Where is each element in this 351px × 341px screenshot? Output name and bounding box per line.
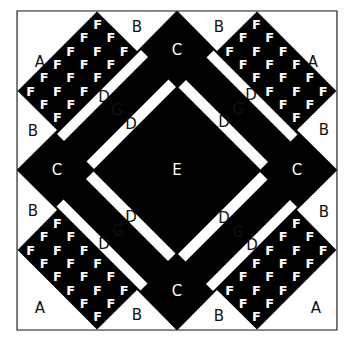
label-f: F [80,30,89,45]
label-f: F [252,283,261,298]
label-f: F [80,269,89,284]
label-g: G [112,222,124,240]
label-d: D [218,113,230,131]
label-g: G [232,223,244,241]
label-f: F [305,256,314,271]
label-f: F [66,70,75,85]
label-f: F [80,296,89,311]
label-f: F [93,44,102,59]
label-f: F [93,256,102,271]
label-b: B [214,307,224,325]
label-f: F [80,84,89,99]
label-f: F [40,97,49,112]
label-f: F [279,256,288,271]
label-b: B [319,121,329,139]
label-f: F [252,309,261,324]
label-f: F [292,57,301,72]
label-f: F [40,256,49,271]
label-f: F [26,243,35,258]
label-f: F [106,269,115,284]
label-f: F [80,243,89,258]
label-b: B [214,18,224,36]
label-g: G [232,100,244,118]
label-f: F [239,296,248,311]
label-f: F [120,283,129,298]
label-f: F [53,243,62,258]
label-f: F [120,44,129,59]
label-f: F [26,84,35,99]
label-f: F [40,70,49,85]
label-f: F [66,283,75,298]
label-f: F [265,243,274,258]
label-f: F [292,216,301,231]
label-f: F [106,57,115,72]
label-a: A [308,53,319,71]
label-d: D [245,86,257,104]
label-f: F [66,97,75,112]
label-f: F [305,229,314,244]
label-f: F [93,283,102,298]
label-f: F [265,84,274,99]
label-f: F [53,269,62,284]
label-f: F [53,110,62,125]
label-f: F [305,97,314,112]
label-d: D [218,209,230,227]
label-f: F [53,216,62,231]
label-a: A [35,299,46,317]
label-f: F [265,296,274,311]
label-f: F [292,84,301,99]
label-f: F [279,283,288,298]
label-c: C [292,161,302,179]
label-f: F [252,70,261,85]
label-d: D [246,236,258,254]
label-f: F [106,296,115,311]
label-f: F [292,110,301,125]
label-a: A [311,299,322,317]
label-b: B [132,18,142,36]
label-d: D [98,235,110,253]
label-f: F [225,283,234,298]
label-f: F [252,44,261,59]
label-f: F [93,309,102,324]
label-c: C [52,161,62,179]
label-b: B [28,202,38,220]
label-f: F [265,269,274,284]
label-f: F [319,84,328,99]
label-f: F [93,70,102,85]
label-f: F [239,269,248,284]
label-f: F [279,70,288,85]
label-c: C [172,41,182,59]
label-f: F [80,57,89,72]
label-d: D [125,208,137,226]
label-f: F [265,57,274,72]
label-f: F [252,17,261,32]
label-f: F [279,97,288,112]
label-f: F [292,269,301,284]
label-f: F [93,17,102,32]
label-c: C [172,282,182,300]
label-f: F [40,229,49,244]
quilt-block-diagram: FFFFFFFFFFFFFFFFFFFFFFFFFFFFFFFFFFFFFFFF… [0,0,351,341]
label-f: F [305,70,314,85]
label-f: F [66,229,75,244]
label-f: F [265,30,274,45]
label-g: G [111,101,123,119]
label-f: F [106,30,115,45]
label-f: F [279,229,288,244]
label-b: B [28,122,38,140]
label-f: F [53,57,62,72]
label-b: B [319,203,329,221]
label-d: D [98,88,110,106]
label-f: F [319,243,328,258]
label-f: F [252,256,261,271]
label-b: B [132,306,142,324]
label-f: F [292,243,301,258]
label-f: F [239,57,248,72]
label-f: F [66,44,75,59]
label-e: E [172,161,181,179]
label-f: F [239,30,248,45]
label-f: F [66,256,75,271]
label-f: F [279,44,288,59]
label-f: F [53,84,62,99]
label-a: A [35,53,46,71]
